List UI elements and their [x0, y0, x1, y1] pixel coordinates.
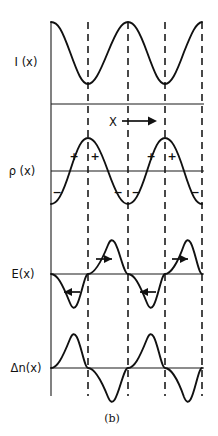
x-axis-label: X — [109, 115, 117, 129]
figure-container: I (x) arrow annotation --> X ρ (x) + + +… — [0, 0, 218, 436]
minus-sign-1: − — [52, 186, 61, 199]
electric-field-axis-label: E(x) — [11, 267, 34, 281]
plus-sign-4: + — [167, 150, 176, 163]
physics-waveform-figure: I (x) arrow annotation --> X ρ (x) + + +… — [0, 0, 218, 436]
minus-sign-4: − — [190, 186, 199, 199]
plus-sign-1: + — [69, 150, 78, 163]
plus-sign-3: + — [146, 150, 155, 163]
intensity-axis-label: I (x) — [15, 55, 38, 69]
minus-sign-3: − — [131, 186, 140, 199]
figure-caption: (b) — [104, 412, 120, 425]
index-change-axis-label: Δn(x) — [11, 361, 42, 375]
arrow-right-icon-2 — [172, 255, 188, 263]
charge-density-axis-label: ρ (x) — [9, 164, 36, 178]
minus-sign-2: − — [113, 186, 122, 199]
plus-sign-2: + — [90, 150, 99, 163]
intensity-curve — [51, 22, 202, 84]
dashed-grid-lines — [88, 22, 202, 396]
charge-sign-markers: + + + + − − − − — [52, 150, 199, 199]
arrow-right-icon-1 — [96, 255, 112, 263]
arrow-left-icon-2 — [140, 288, 156, 296]
